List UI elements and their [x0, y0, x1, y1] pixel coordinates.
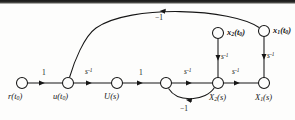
node-summing-junction[interactable]: [161, 78, 172, 89]
node-label-x1-initial: x1(t0): [273, 26, 291, 36]
edge-x1t-u-feedback: [70, 12, 260, 78]
node-u[interactable]: [63, 78, 74, 89]
graph-canvas: [0, 0, 295, 120]
node-label-X1: X1(s): [255, 93, 272, 103]
node-label-X2: X2(s): [209, 93, 226, 103]
edge-label-X2-n4-feedback: −1: [180, 105, 188, 113]
node-x2-initial[interactable]: [213, 28, 224, 39]
node-X1[interactable]: [259, 78, 270, 89]
node-X2[interactable]: [213, 78, 224, 89]
signal-flow-graph-figure: r(t0) u(t0) U(s) X2(s) X1(s) x2(t0) x1(t…: [0, 0, 295, 120]
node-label-x2-initial: x2(t0): [227, 28, 245, 38]
edge-label-x1t-X1: s-1: [267, 52, 274, 60]
node-x1-initial[interactable]: [259, 26, 270, 37]
edge-label-n4-X2: s-1: [184, 68, 191, 76]
node-U[interactable]: [112, 78, 123, 89]
edge-label-U-n4: 1: [139, 69, 143, 77]
edge-label-r-u: 1: [42, 69, 46, 77]
edge-X2-n4-feedback: [169, 88, 215, 99]
edge-layer: [28, 11, 265, 100]
node-label-U: U(s): [104, 92, 119, 101]
edge-label-x2t-X2: s-1: [221, 53, 228, 61]
node-label-r: r(t0): [8, 92, 22, 102]
node-r[interactable]: [17, 78, 28, 89]
edge-label-u-U: s-1: [85, 68, 92, 76]
edge-label-x1t-u-feedback: −1: [155, 14, 163, 22]
node-label-u: u(t0): [53, 92, 68, 102]
edge-label-X2-X1: s-1: [232, 68, 239, 76]
